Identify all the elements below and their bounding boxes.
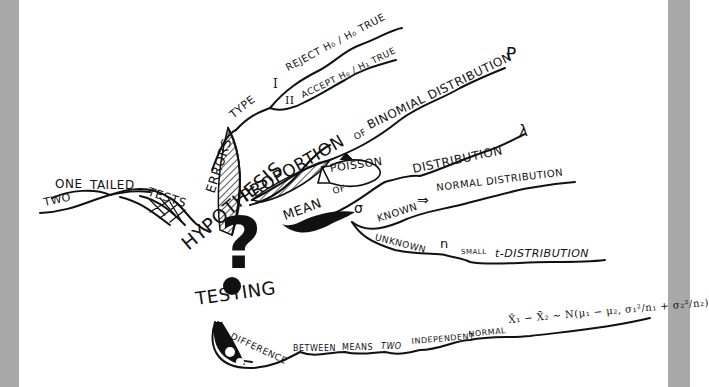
mindmap-lines: ? [19,0,668,387]
label-between: BETWEEN [293,344,336,353]
label-means: MEANS [342,343,373,352]
label-sigma: σ [354,200,363,216]
frame-right [668,0,690,387]
label-t-dist: t-DISTRIBUTION [495,247,589,260]
label-small: SMALL [461,248,487,256]
label-known-arrow: ⇒ [417,192,429,208]
label-one: ONE [55,177,83,191]
label-tailed: TAILED [90,178,135,192]
mindmap-canvas: ? ONE TWO TAILED TESTS ERRORS TYPE I REJ… [19,0,668,387]
label-param-lambda: λ [519,122,528,140]
frame-left [0,0,19,387]
label-type2-numeral: II [285,94,295,107]
label-type1-numeral: I [273,77,278,91]
label-param-p: P [506,44,517,64]
label-n: n [440,236,449,251]
label-two-diff: TWO [381,342,402,351]
